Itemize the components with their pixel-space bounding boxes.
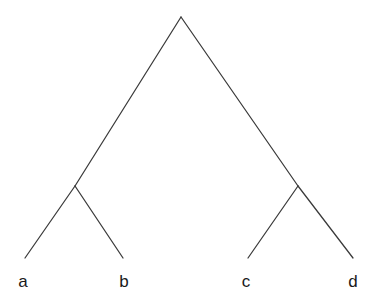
- tree-branch-n2-d: [298, 186, 353, 258]
- leaf-label-a: a: [18, 272, 28, 291]
- cladogram-figure: abcd: [0, 0, 386, 307]
- branch-group: [25, 17, 353, 258]
- leaf-label-d: d: [348, 272, 357, 291]
- leaf-label-b: b: [119, 272, 128, 291]
- tree-branch-root-n2: [181, 17, 298, 186]
- tree-canvas: abcd: [0, 0, 386, 307]
- leaf-label-group: abcd: [18, 272, 357, 291]
- tree-branch-n1-b: [75, 186, 123, 258]
- leaf-label-c: c: [242, 272, 251, 291]
- tree-branch-n1-a: [25, 186, 75, 258]
- tree-branch-n2-c: [248, 186, 298, 258]
- tree-branch-root-n1: [75, 17, 181, 186]
